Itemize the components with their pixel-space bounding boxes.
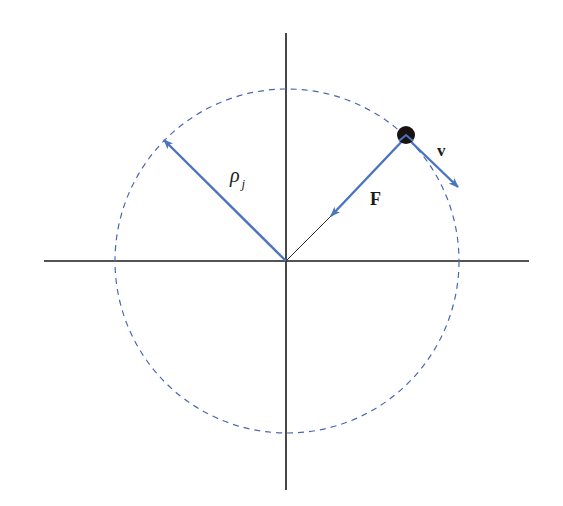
force-vector-arrow [331, 137, 406, 216]
orbit-diagram: ρj F v [0, 0, 563, 506]
force-line-extension [286, 216, 331, 261]
velocity-label: v [437, 141, 446, 160]
rho-subscript: j [240, 176, 246, 191]
rho-vector-arrow [164, 140, 286, 261]
velocity-vector-arrow [406, 137, 458, 187]
rho-label: ρj [229, 164, 246, 191]
force-label: F [370, 189, 381, 209]
